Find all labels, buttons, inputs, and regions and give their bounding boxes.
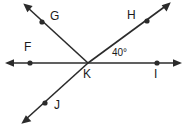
arrowhead-upper-h <box>162 2 171 11</box>
point-label-h: H <box>127 9 136 21</box>
geometry-figure: G H F 40° K I J <box>0 0 186 124</box>
arrowhead-right-fi <box>173 59 182 66</box>
point-dot-i <box>154 60 159 65</box>
point-label-g: G <box>50 10 60 22</box>
arrowhead-left-fi <box>5 59 14 66</box>
point-dot-f <box>27 60 32 65</box>
point-dot-h <box>144 18 149 23</box>
point-label-i: I <box>154 68 158 80</box>
point-dot-g <box>39 19 44 24</box>
geometry-canvas <box>0 0 186 124</box>
angle-label-40: 40° <box>112 48 127 58</box>
point-label-j: J <box>54 99 60 111</box>
point-label-f: F <box>24 41 32 53</box>
point-dot-j <box>42 100 47 105</box>
point-label-k: K <box>83 68 91 80</box>
